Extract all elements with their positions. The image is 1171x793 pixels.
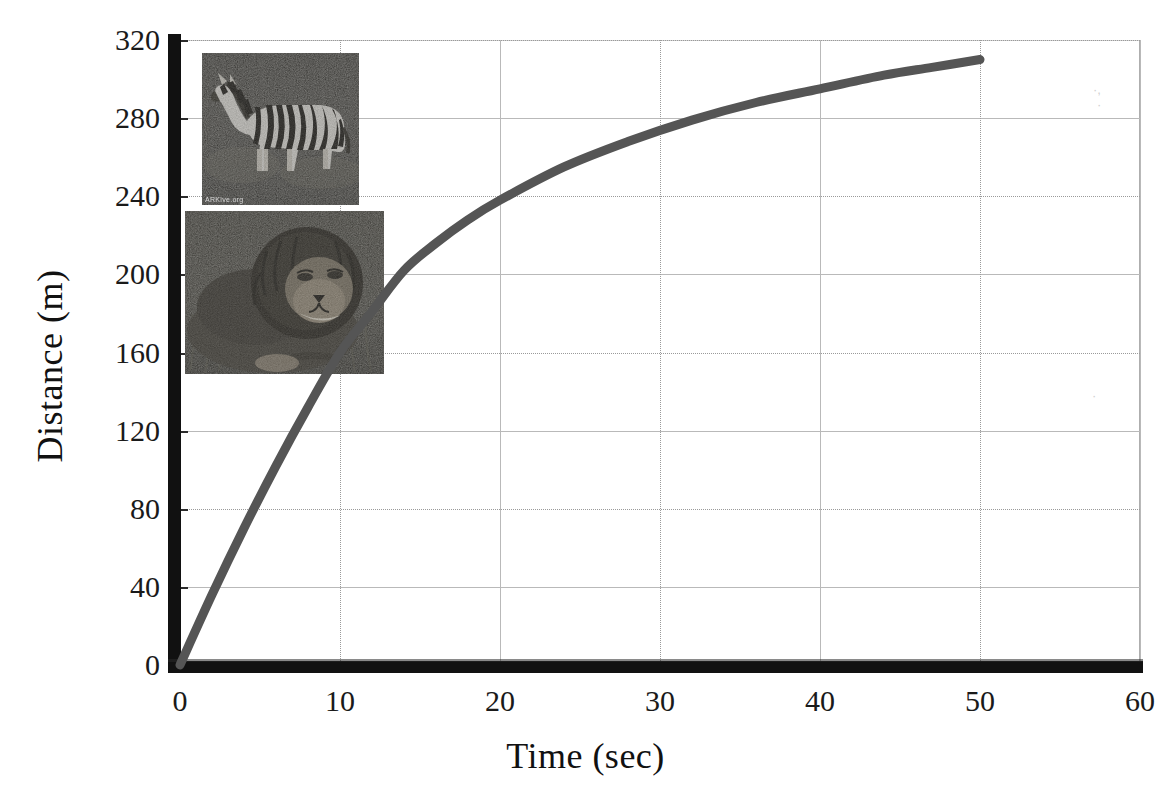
y-tick-240	[181, 196, 188, 198]
y-axis-title: Distance (m)	[29, 166, 71, 566]
zebra-photo-watermark: ARKive.org	[205, 196, 243, 203]
y-tick-label-280: 280	[40, 103, 160, 133]
gridline-x-60	[1140, 40, 1141, 665]
gridline-x-20	[500, 40, 501, 665]
x-tick-label-30: 30	[620, 686, 700, 716]
y-tick-label-0: 0	[40, 650, 160, 680]
scan-smudge-2: ·	[1097, 97, 1101, 112]
chart-root: 04080120160200240280320 0102030405060 Ti…	[0, 0, 1171, 793]
scan-smudge-3: ·	[1092, 388, 1096, 403]
x-tick-label-40: 40	[780, 686, 860, 716]
y-tick-320	[181, 40, 188, 42]
gridline-x-40	[820, 40, 821, 665]
gridline-x-50	[980, 40, 981, 665]
lion-illustration	[185, 211, 384, 374]
x-tick-label-0: 0	[140, 686, 220, 716]
zebra-illustration	[202, 53, 359, 205]
y-tick-280	[181, 118, 188, 120]
x-tick-label-20: 20	[460, 686, 540, 716]
y-tick-label-320: 320	[40, 25, 160, 55]
y-tick-80	[181, 509, 188, 511]
y-tick-label-40: 40	[40, 572, 160, 602]
y-tick-120	[181, 431, 188, 433]
lion-photo	[185, 211, 384, 374]
chart-title-cropped	[0, 0, 1171, 4]
x-tick-label-60: 60	[1100, 686, 1171, 716]
x-tick-label-10: 10	[300, 686, 380, 716]
x-tick-label-50: 50	[940, 686, 1020, 716]
zebra-photo: ARKive.org	[202, 53, 359, 205]
y-axis-line	[168, 34, 181, 670]
x-axis-line	[168, 661, 1143, 673]
x-axis-title: Time (sec)	[0, 735, 1171, 777]
gridline-x-30	[660, 40, 661, 665]
y-tick-40	[181, 587, 188, 589]
scan-smudge-1: ·,	[1093, 82, 1101, 97]
